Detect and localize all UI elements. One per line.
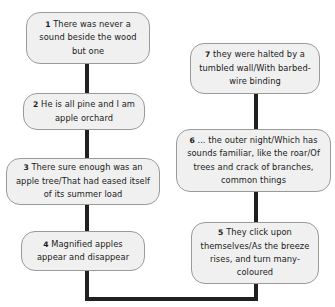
flow-node-4[interactable]: 4 Magnified apples appear and disappear (21, 231, 145, 271)
flow-node-2[interactable]: 2 He is all pine and I am apple orchard (23, 93, 145, 130)
flow-node-2-number: 2 (33, 100, 38, 109)
flow-node-5[interactable]: 5 They click upon themselves/As the bree… (191, 222, 319, 284)
flow-node-3-content: 3 There sure enough was an apple tree/Th… (13, 161, 153, 201)
flow-node-7-number: 7 (205, 50, 210, 59)
flow-node-7-text: they were halted by a tumbled wall/With … (199, 49, 311, 86)
flow-node-7[interactable]: 7 they were halted by a tumbled wall/Wit… (190, 43, 320, 94)
flow-node-1[interactable]: 1 There was never a sound beside the woo… (26, 12, 150, 64)
edge-5-6 (254, 191, 258, 224)
flow-node-5-text: They click upon themselves/As the breeze… (201, 227, 310, 277)
flowchart-canvas: 1 There was never a sound beside the woo… (0, 0, 335, 307)
flow-node-2-content: 2 He is all pine and I am apple orchard (30, 98, 138, 125)
flow-node-6-number: 6 (189, 136, 194, 145)
flow-node-6-content: 6 ... the outer night/Which has sounds f… (183, 134, 324, 188)
flow-node-6[interactable]: 6 ... the outer night/Which has sounds f… (176, 129, 331, 192)
edge-6-7 (254, 93, 258, 130)
flow-node-5-number: 5 (218, 228, 223, 237)
flow-node-5-content: 5 They click upon themselves/As the bree… (198, 226, 312, 280)
flow-node-1-content: 1 There was never a sound beside the woo… (33, 18, 143, 58)
edge-3-4 (85, 203, 89, 233)
flow-node-3-number: 3 (23, 163, 28, 172)
flow-node-1-text: There was never a sound beside the wood … (39, 19, 136, 56)
flow-node-1-number: 1 (45, 20, 50, 29)
edge-2-3 (85, 128, 89, 160)
flow-node-3-text: There sure enough was an apple tree/That… (16, 162, 150, 199)
flow-node-4-text: Magnified apples appear and disappear (37, 239, 129, 262)
flow-node-2-text: He is all pine and I am apple orchard (41, 99, 135, 122)
edge-4-5-bottom-segment (85, 297, 258, 301)
edge-4-5-right-segment (254, 283, 258, 301)
flow-node-3[interactable]: 3 There sure enough was an apple tree/Th… (6, 158, 160, 205)
edge-1-2 (85, 62, 89, 95)
flow-node-4-number: 4 (43, 240, 48, 249)
flow-node-4-content: 4 Magnified apples appear and disappear (28, 238, 138, 265)
flow-node-6-text: ... the outer night/Which has sounds fam… (187, 135, 320, 185)
flow-node-7-content: 7 they were halted by a tumbled wall/Wit… (197, 48, 313, 88)
